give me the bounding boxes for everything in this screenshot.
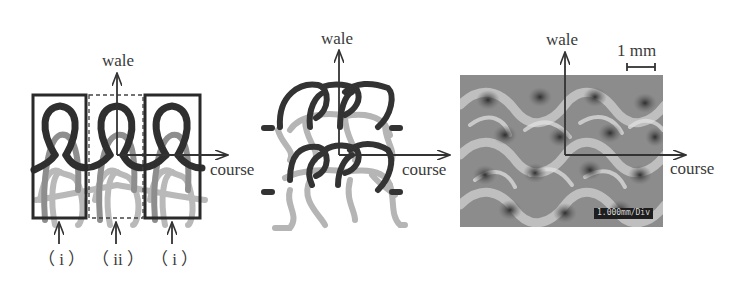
scale-bar-icon <box>627 63 655 71</box>
region-label-ii: （ ii ） <box>92 251 144 268</box>
scale-bar-label: 1 mm <box>617 42 656 59</box>
wale-label: wale <box>321 30 353 47</box>
region-label-i-left: （ i ） <box>38 251 85 268</box>
course-label: course <box>210 161 254 178</box>
schematic-drawing <box>0 0 300 288</box>
course-label: course <box>670 160 714 177</box>
course-label: course <box>402 161 446 178</box>
panel-schematic: wale course （ i ） （ ii ） （ i ） <box>0 0 300 288</box>
wale-label: wale <box>102 52 134 69</box>
region-label-i-right: （ i ） <box>151 251 198 268</box>
micrograph-image: 1.000mm/Div <box>460 75 663 227</box>
wale-label: wale <box>546 31 578 48</box>
micrograph-scale-caption: 1.000mm/Div <box>594 208 653 219</box>
micrograph-texture <box>460 75 663 227</box>
